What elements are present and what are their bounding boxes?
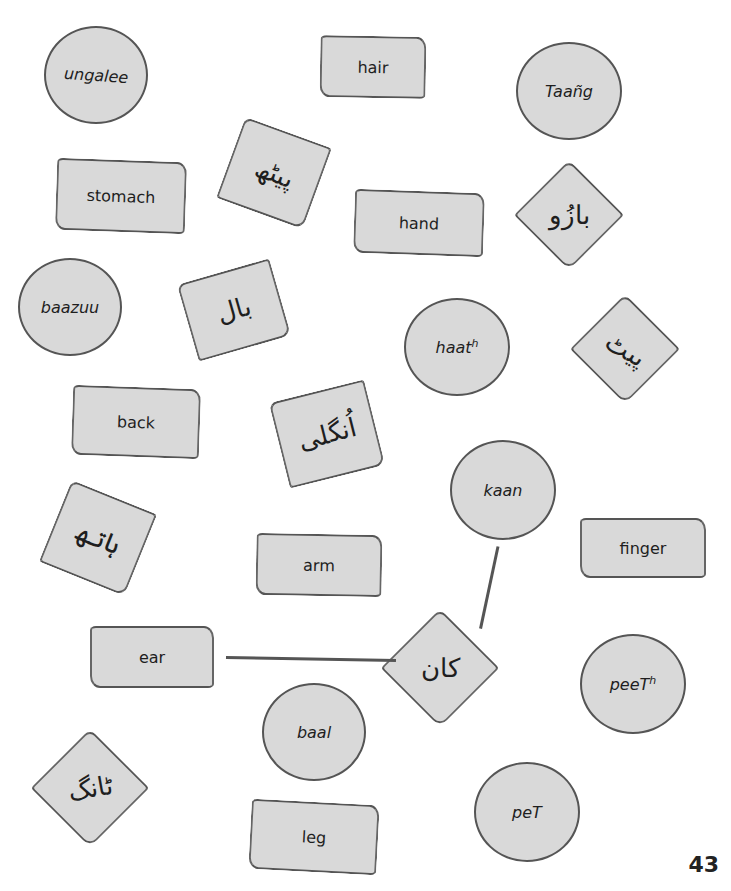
connection-line-ear-kaan	[226, 656, 396, 662]
card-finger[interactable]: finger	[580, 518, 706, 578]
card-label: finger	[620, 539, 667, 558]
card-urdu-baal[interactable]: بال	[177, 258, 291, 361]
card-label: ٹانگ	[65, 769, 115, 806]
circle-label: baazuu	[41, 298, 99, 317]
card-hand[interactable]: hand	[353, 189, 485, 257]
circle-label-sup: h	[649, 674, 656, 687]
connection-line-kaan-circle	[479, 546, 499, 629]
card-label: کان	[421, 653, 460, 683]
circle-label: haath	[435, 337, 478, 357]
card-label: stomach	[86, 185, 155, 206]
circle-label: peT	[512, 803, 542, 822]
card-urdu-haath[interactable]: ہاتھ	[39, 480, 157, 596]
card-urdu-taang[interactable]: ٹانگ	[31, 729, 150, 848]
circle-kaan[interactable]: kaan	[450, 440, 556, 540]
circle-label: kaan	[483, 481, 522, 500]
circle-ungalee[interactable]: ungalee	[44, 26, 148, 124]
page-number: 43	[688, 852, 719, 877]
circle-baazuu[interactable]: baazuu	[18, 258, 122, 356]
card-label: بازُو	[549, 200, 590, 230]
card-label: بال	[214, 291, 255, 329]
circle-baal[interactable]: baal	[262, 683, 366, 781]
circle-haath[interactable]: haath	[404, 298, 510, 396]
card-label: arm	[303, 555, 335, 575]
card-label: اُنگلی	[295, 412, 360, 455]
card-urdu-baazuu[interactable]: بازُو	[514, 160, 624, 270]
card-urdu-pet[interactable]: پیٹ	[570, 294, 680, 404]
card-label: ہاتھ	[72, 516, 125, 561]
card-leg[interactable]: leg	[248, 799, 379, 876]
card-label: back	[117, 412, 156, 432]
card-back[interactable]: back	[71, 385, 201, 459]
card-arm[interactable]: arm	[255, 533, 382, 597]
card-urdu-peeth[interactable]: پیٹھ	[216, 117, 332, 229]
circle-label-text: haat	[435, 338, 471, 357]
circle-label: ungalee	[63, 63, 129, 86]
card-ear[interactable]: ear	[90, 626, 214, 688]
card-label: پیٹھ	[251, 152, 298, 194]
card-label: hand	[399, 213, 440, 233]
card-label: leg	[301, 827, 326, 847]
circle-label: Taañg	[545, 82, 593, 101]
circle-label: peeTh	[610, 674, 657, 694]
card-label: پیٹ	[600, 326, 651, 372]
circle-label: baal	[297, 723, 331, 742]
card-urdu-ungalee[interactable]: اُنگلی	[269, 379, 385, 488]
card-label: ear	[139, 648, 165, 667]
card-hair[interactable]: hair	[319, 35, 426, 99]
card-label: hair	[357, 57, 388, 77]
circle-taang[interactable]: Taañg	[516, 42, 622, 140]
circle-label-text: peeT	[610, 675, 650, 694]
circle-pet[interactable]: peT	[474, 762, 580, 862]
card-stomach[interactable]: stomach	[55, 158, 187, 234]
circle-label-sup: h	[472, 337, 479, 350]
circle-peeth[interactable]: peeTh	[580, 634, 686, 734]
